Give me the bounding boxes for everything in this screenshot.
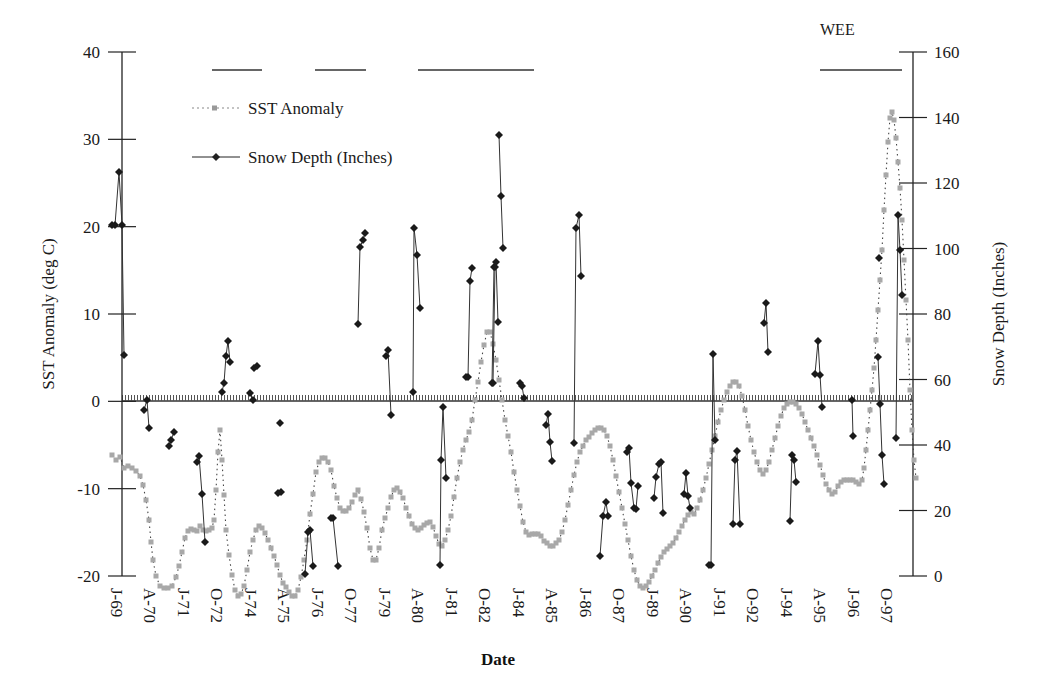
right-tick-label: 120 (934, 174, 960, 193)
left-tick-label: -20 (77, 567, 100, 586)
right-y-axis: 020406080100120140160 (899, 43, 960, 586)
left-y-axis: -20-10010203040 (77, 43, 136, 586)
x-tick-label: J-94 (777, 588, 796, 618)
square-marker-icon (212, 106, 217, 111)
legend-item-snow: Snow Depth (Inches) (192, 148, 392, 167)
left-tick-label: 20 (83, 218, 100, 237)
x-tick-label: J-91 (710, 588, 729, 617)
left-tick-label: -10 (77, 480, 100, 499)
right-tick-label: 20 (934, 502, 951, 521)
legend-label-snow: Snow Depth (Inches) (248, 148, 392, 167)
left-tick-label: 10 (83, 305, 100, 324)
x-tick-label: J-89 (643, 588, 662, 617)
x-axis-title: Date (481, 650, 515, 669)
x-tick-label: J-86 (576, 588, 595, 617)
x-tick-label: O-92 (743, 588, 762, 623)
x-tick-label: A-95 (810, 588, 829, 623)
x-tick-label: A-90 (676, 588, 695, 623)
left-tick-label: 30 (83, 130, 100, 149)
x-tick-label: J-76 (308, 588, 327, 617)
x-tick-label: O-77 (341, 588, 360, 623)
right-tick-label: 60 (934, 371, 951, 390)
left-axis-title: SST Anomaly (deg C) (39, 238, 58, 389)
right-tick-label: 100 (934, 240, 960, 259)
right-tick-label: 0 (934, 567, 943, 586)
snow-depth-series (108, 131, 906, 578)
right-axis-title: Snow Depth (Inches) (989, 242, 1008, 386)
diamond-marker-icon (212, 153, 220, 161)
right-tick-label: 80 (934, 305, 951, 324)
legend-item-sst: SST Anomaly (192, 99, 344, 118)
x-tick-label: J-84 (509, 588, 528, 618)
x-tick-label: J-79 (375, 588, 394, 617)
wee-annotation: WEE (820, 21, 855, 38)
x-tick-label: J-96 (844, 588, 863, 617)
x-tick-label: A-80 (408, 588, 427, 623)
x-tick-label: O-97 (877, 588, 896, 623)
left-tick-label: 0 (92, 392, 101, 411)
legend-label-sst: SST Anomaly (248, 99, 344, 118)
x-axis-tick-labels: J-69A-70J-71O-72J-74A-75J-76O-77J-79A-80… (107, 588, 896, 623)
x-tick-label: O-87 (609, 588, 628, 623)
right-tick-label: 140 (934, 109, 960, 128)
x-tick-label: O-82 (475, 588, 494, 623)
x-tick-label: J-69 (107, 588, 126, 617)
x-tick-label: J-74 (241, 588, 260, 618)
x-tick-label: O-72 (207, 588, 226, 623)
x-tick-label: A-70 (140, 588, 159, 623)
chart: -20-10010203040 020406080100120140160 SS… (0, 0, 1042, 695)
x-tick-label: A-85 (542, 588, 561, 623)
x-tick-label: J-71 (174, 588, 193, 617)
sst-anomaly-series (110, 110, 919, 599)
left-tick-label: 40 (83, 43, 100, 62)
right-tick-label: 40 (934, 436, 951, 455)
legend: SST Anomaly Snow Depth (Inches) (192, 99, 392, 167)
right-tick-label: 160 (934, 43, 960, 62)
x-tick-label: J-81 (442, 588, 461, 617)
